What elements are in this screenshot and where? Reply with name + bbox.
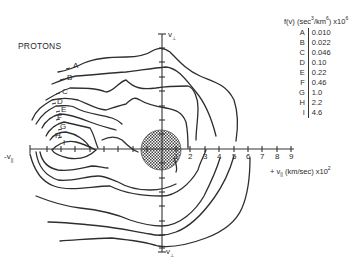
y-axis-label-top: v⊥ [168, 31, 176, 41]
x-tick-7: 7 [260, 153, 264, 161]
contour-b [52, 67, 216, 136]
contour-inner-lobe [102, 137, 138, 152]
contour-lower-1 [40, 152, 108, 171]
legend-row: F0.46 [296, 78, 334, 88]
contour-label-b: B [67, 74, 72, 82]
contour-lower-6 [60, 158, 250, 247]
negative-x-axis-label: -v|| [4, 153, 13, 163]
figure-title: PROTONS [18, 42, 61, 51]
contour-e [36, 106, 122, 125]
x-tick-6: 6 [246, 153, 250, 161]
legend-table: A0.010 B0.022 C0.046 D0.10 E0.22 F0.46 G… [296, 28, 334, 118]
x-tick-8: 8 [275, 153, 279, 161]
x-axis-label: + v|| (km/sec) x102 [270, 166, 331, 177]
x-tick-3: 3 [203, 153, 207, 161]
x-tick-1: 1 [174, 153, 178, 161]
legend-row: C0.046 [296, 48, 334, 58]
contour-label-g: G [60, 123, 66, 131]
legend-row: H2.2 [296, 98, 334, 108]
legend-row: D0.10 [296, 58, 334, 68]
legend-row: I4.6 [296, 108, 334, 118]
contour-label-h: H [55, 132, 61, 140]
legend-row: B0.022 [296, 38, 334, 48]
contour-label-a: A [73, 62, 78, 70]
x-tick-2: 2 [188, 153, 192, 161]
contour-label-f: F [57, 114, 62, 122]
x-tick-9: 9 [289, 153, 293, 161]
legend-row: G1.0 [296, 88, 334, 98]
y-axis-label-bottom: v⊥ [166, 248, 174, 258]
x-tick-5: 5 [232, 153, 236, 161]
legend-title: f(v) (sec3/km6) x106 [284, 15, 356, 26]
legend-row: A0.010 [296, 28, 334, 38]
legend: f(v) (sec3/km6) x106 A0.010 B0.022 C0.04… [284, 15, 356, 26]
contour-label-c: C [62, 88, 68, 96]
legend-row: E0.22 [296, 68, 334, 78]
velocity-distribution-figure: A B C D E F G H I PROTONS 1 2 3 4 5 6 7 … [0, 0, 358, 277]
contour-lines [30, 48, 250, 246]
contour-label-i: I [63, 139, 65, 147]
x-tick-4: 4 [217, 153, 221, 161]
contour-i [52, 141, 96, 158]
